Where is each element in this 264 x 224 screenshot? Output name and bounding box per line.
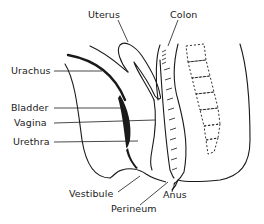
sacrum-vertebrae	[186, 44, 220, 154]
label-vagina: Vagina	[14, 117, 47, 128]
posterior-body-wall	[172, 44, 250, 190]
label-uterus: Uterus	[88, 9, 120, 20]
label-vestibule: Vestibule	[69, 188, 113, 199]
urethra-shape	[126, 148, 138, 169]
bladder-shape	[118, 95, 131, 148]
vagina-wall	[151, 100, 156, 170]
label-urachus: Urachus	[11, 65, 51, 76]
urachus-line	[68, 55, 125, 100]
uterus-outline	[118, 43, 160, 100]
label-urethra: Urethra	[13, 136, 50, 147]
peritoneal-fold	[90, 46, 128, 72]
rectum-right	[174, 44, 186, 184]
label-perineum: Perineum	[111, 203, 157, 214]
label-colon: Colon	[170, 9, 197, 20]
label-bladder: Bladder	[11, 102, 49, 113]
vestibule-shape	[122, 169, 166, 182]
label-anus: Anus	[163, 189, 187, 200]
